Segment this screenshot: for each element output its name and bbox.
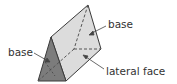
- base-label-right: base: [108, 18, 133, 30]
- triangular-prism-diagram: base base lateral face: [0, 0, 177, 84]
- base-label-left: base: [8, 46, 33, 58]
- lateral-face-label: lateral face: [106, 65, 165, 77]
